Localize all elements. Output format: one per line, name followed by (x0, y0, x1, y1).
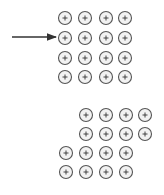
ion-lattice-diagram (0, 0, 164, 195)
positive-ion-icon (79, 52, 92, 65)
positive-ion-icon (59, 71, 72, 84)
positive-ion-icon (59, 32, 72, 45)
positive-ion-icon (120, 166, 133, 179)
positive-ion-icon (100, 12, 113, 25)
top-lattice (59, 12, 132, 84)
positive-ion-icon (79, 71, 92, 84)
positive-ion-icon (79, 32, 92, 45)
positive-ion-icon (80, 109, 93, 122)
positive-ion-icon (139, 109, 152, 122)
bottom-lattice (60, 109, 152, 179)
positive-ion-icon (119, 52, 132, 65)
positive-ion-icon (139, 128, 152, 141)
positive-ion-icon (60, 147, 73, 160)
positive-ion-icon (80, 147, 93, 160)
positive-ion-icon (100, 147, 113, 160)
positive-ion-icon (80, 128, 93, 141)
positive-ion-icon (120, 147, 133, 160)
positive-ion-icon (100, 109, 113, 122)
positive-ion-icon (80, 166, 93, 179)
positive-ion-icon (100, 52, 113, 65)
positive-ion-icon (120, 128, 133, 141)
positive-ion-icon (119, 32, 132, 45)
positive-ion-icon (120, 109, 133, 122)
positive-ion-icon (60, 166, 73, 179)
positive-ion-icon (119, 12, 132, 25)
positive-ion-icon (119, 71, 132, 84)
positive-ion-icon (100, 32, 113, 45)
positive-ion-icon (79, 12, 92, 25)
positive-ion-icon (59, 52, 72, 65)
positive-ion-icon (100, 128, 113, 141)
positive-ion-icon (100, 166, 113, 179)
positive-ion-icon (100, 71, 113, 84)
positive-ion-icon (59, 12, 72, 25)
